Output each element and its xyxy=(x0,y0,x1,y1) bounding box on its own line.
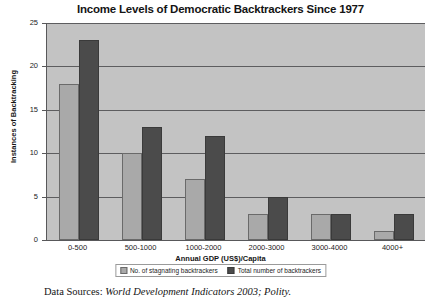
x-axis-tick-label: 500-1000 xyxy=(109,243,172,252)
x-axis-tick-label: 0-500 xyxy=(46,243,109,252)
bar xyxy=(268,197,288,240)
chart-figure: Income Levels of Democratic Backtrackers… xyxy=(0,0,441,280)
x-axis-tick-label: 2000-3000 xyxy=(235,243,298,252)
legend-entry: No. of stagnating backtrackers xyxy=(120,267,218,274)
y-axis-tick-label: 0 xyxy=(34,235,38,244)
source-note-prefix: Data Sources: xyxy=(44,286,103,297)
legend-swatch xyxy=(120,267,127,274)
bar-group xyxy=(248,23,288,240)
y-axis-tick-label: 5 xyxy=(34,192,38,201)
x-axis-title: Annual GDP (US$)/Capita xyxy=(0,254,441,263)
legend-entry: Total number of backtrackers xyxy=(228,267,321,274)
plot-area xyxy=(46,23,425,241)
x-axis-tick-label: 1000-2000 xyxy=(172,243,235,252)
legend-swatch xyxy=(228,267,235,274)
source-note-citation: World Development Indicators 2003; Polit… xyxy=(105,286,291,297)
y-axis-ticks: 0510152025 xyxy=(0,23,46,241)
bar xyxy=(331,214,351,240)
bar xyxy=(374,231,394,240)
bar-group xyxy=(185,23,225,240)
x-axis-tick-label: 3000-4000 xyxy=(298,243,361,252)
y-axis-tick-label: 10 xyxy=(30,148,38,157)
bar-group xyxy=(59,23,99,240)
y-axis-tick-label: 25 xyxy=(30,18,38,27)
bar xyxy=(142,127,162,240)
gridline xyxy=(47,153,425,154)
bar-group xyxy=(311,23,351,240)
bar xyxy=(122,153,142,240)
bar xyxy=(205,136,225,240)
y-axis-tick-label: 15 xyxy=(30,105,38,114)
x-axis-tick-label: 4000+ xyxy=(361,243,424,252)
legend-label: Total number of backtrackers xyxy=(238,267,321,274)
bar xyxy=(311,214,331,240)
bar xyxy=(185,179,205,240)
legend-label: No. of stagnating backtrackers xyxy=(130,267,218,274)
gridline xyxy=(47,66,425,67)
bar-group xyxy=(374,23,414,240)
bar xyxy=(248,214,268,240)
bar xyxy=(59,84,79,240)
bar xyxy=(79,40,99,240)
bar xyxy=(394,214,414,240)
gridline xyxy=(47,23,425,24)
source-note: Data Sources: World Development Indicato… xyxy=(44,286,291,297)
chart-title: Income Levels of Democratic Backtrackers… xyxy=(0,3,441,15)
gridline xyxy=(47,110,425,111)
chart-legend: No. of stagnating backtrackersTotal numb… xyxy=(115,264,326,277)
gridline xyxy=(47,197,425,198)
bar-group xyxy=(122,23,162,240)
y-axis-tick-label: 20 xyxy=(30,61,38,70)
